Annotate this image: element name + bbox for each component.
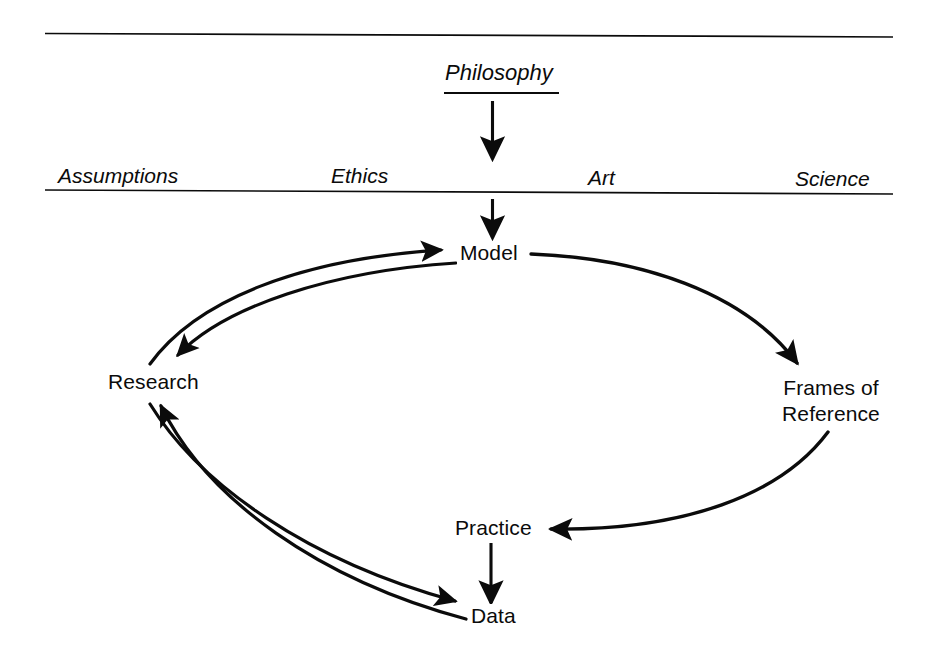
diagram-canvas: Philosophy Assumptions Ethics Art Scienc…	[0, 0, 925, 662]
edge-data-to-research	[161, 406, 466, 619]
node-label-practice: Practice	[452, 516, 535, 540]
edge-model-to-frames	[531, 254, 797, 363]
node-label-research: Research	[105, 370, 202, 394]
edge-model-to-research	[178, 263, 456, 355]
band-rule	[45, 190, 893, 194]
band-label-assumptions: Assumptions	[58, 164, 178, 188]
edge-frames-to-practice	[551, 432, 828, 529]
diagram-lines-layer	[0, 0, 925, 662]
node-label-model: Model	[457, 241, 521, 265]
node-label-frames-of-reference: Frames of Reference	[772, 375, 890, 426]
source-label-philosophy: Philosophy	[445, 60, 553, 86]
edge-research-to-model	[150, 250, 441, 364]
node-label-frames-line-2: Reference	[775, 401, 887, 427]
band-label-ethics: Ethics	[331, 164, 388, 188]
node-label-frames-line-1: Frames of	[775, 375, 887, 401]
band-label-science: Science	[795, 167, 870, 191]
band-label-art: Art	[588, 166, 615, 190]
node-label-data: Data	[468, 604, 519, 628]
top-rule	[45, 34, 893, 38]
edge-research-to-data	[150, 404, 455, 601]
